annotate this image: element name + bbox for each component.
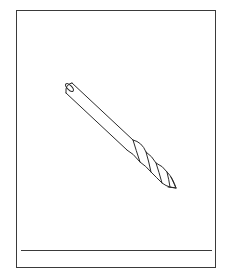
caption-line <box>21 250 212 251</box>
caption-text <box>21 252 212 266</box>
flute-line <box>133 140 140 162</box>
shank-lower-edge <box>66 93 127 150</box>
flute-lower-edge <box>127 150 176 188</box>
shank-upper-edge <box>72 83 133 140</box>
flute-upper-edge <box>133 140 176 188</box>
drill-bit-icon <box>0 0 229 272</box>
